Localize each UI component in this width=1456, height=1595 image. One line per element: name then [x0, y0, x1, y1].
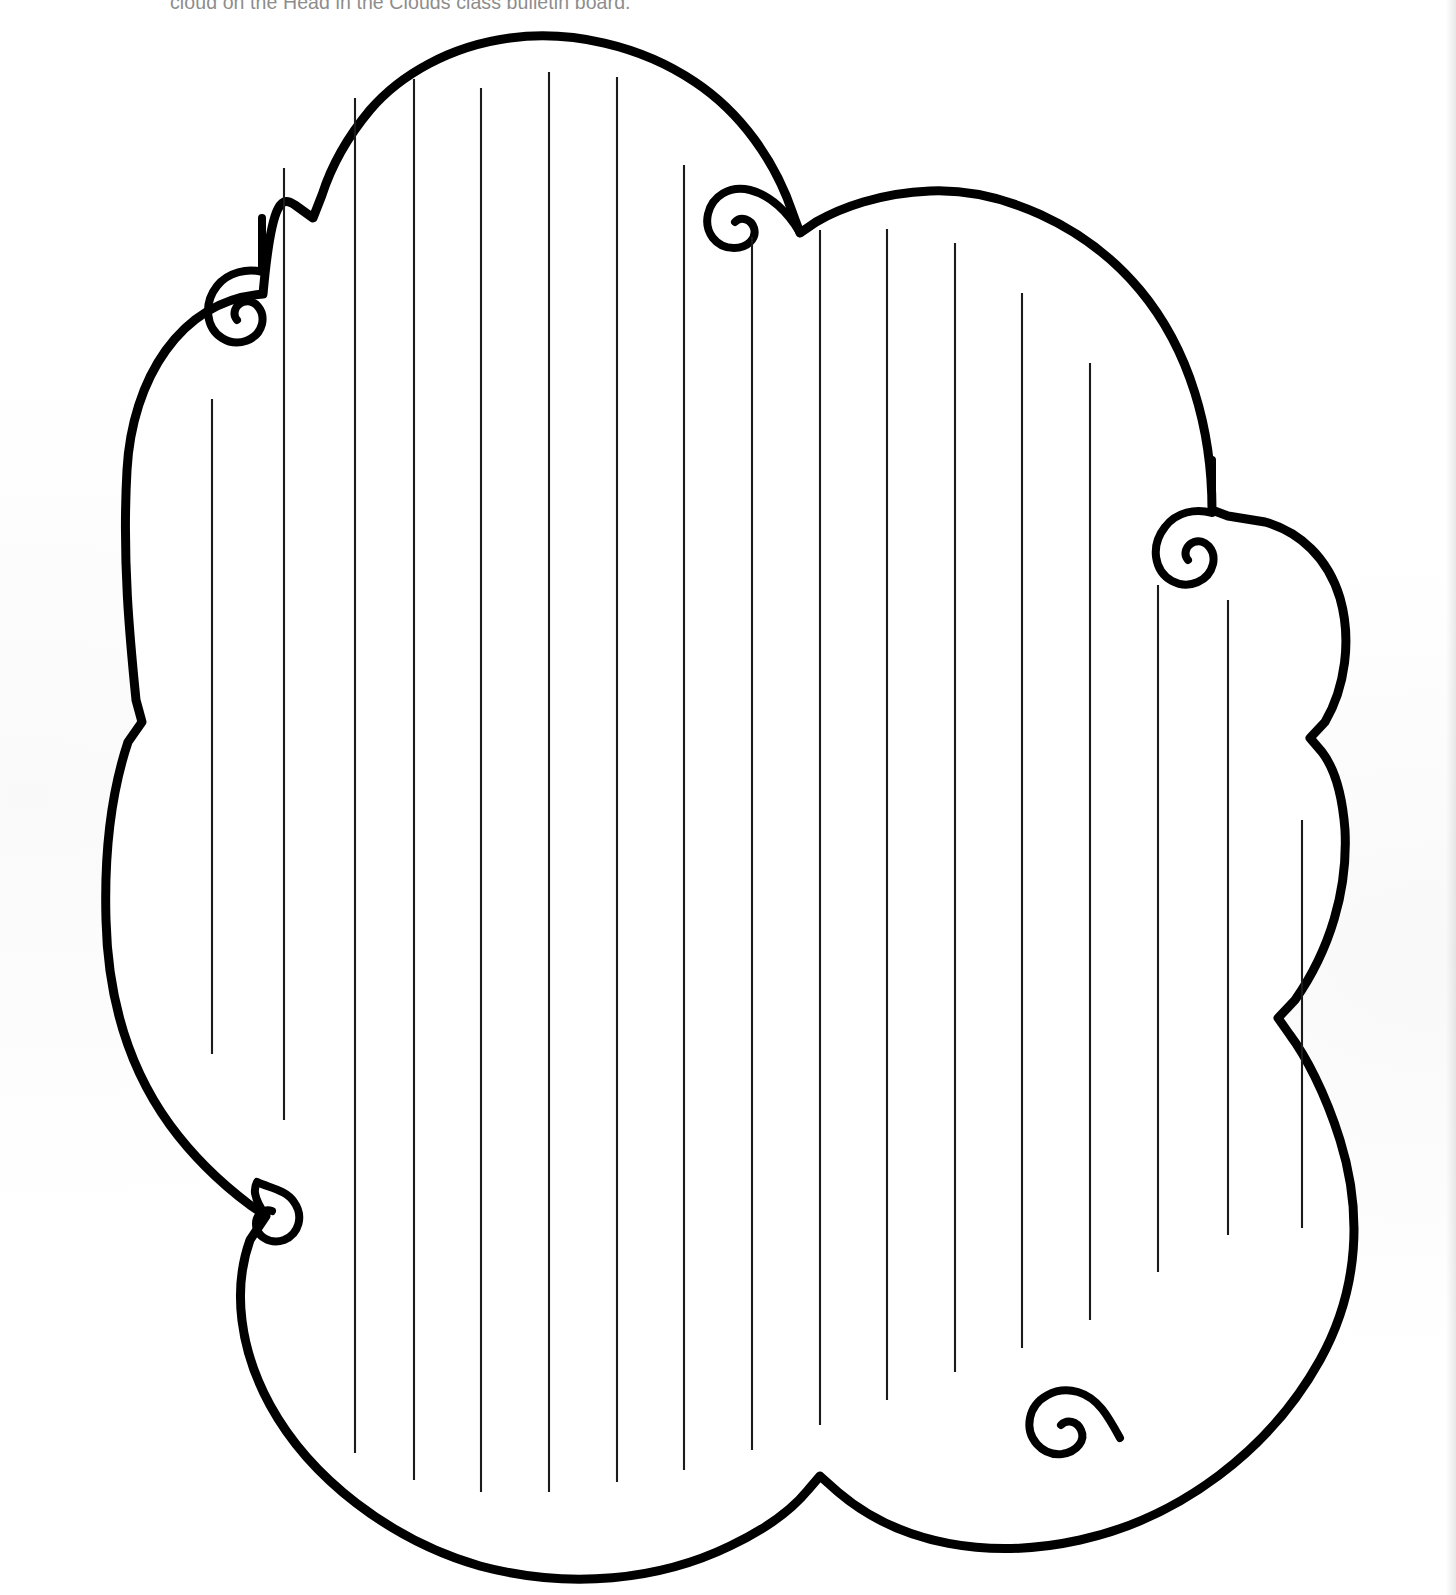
cloud-writing-template: [0, 0, 1456, 1595]
cloud-outline-path: [106, 36, 1354, 1579]
worksheet-page: cloud on the Head in the Clouds class bu…: [0, 0, 1456, 1595]
